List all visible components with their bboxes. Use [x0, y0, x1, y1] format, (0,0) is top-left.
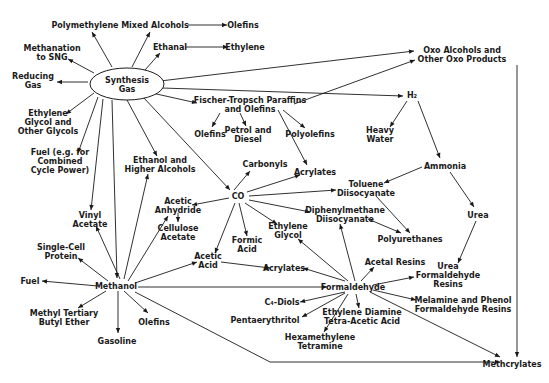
edge-arrow	[418, 101, 440, 158]
edge-arrow	[356, 294, 360, 308]
node-label: Formaldehyde	[321, 283, 386, 292]
node-label: Olefins	[227, 21, 259, 30]
edge-arrow	[78, 291, 106, 308]
node-label: Gasoline	[98, 337, 137, 346]
edge-arrow	[124, 174, 149, 279]
arrowhead-icon	[176, 217, 180, 222]
node-label: Ethanol and	[133, 156, 187, 165]
node-vinyl-acetate: VinylAcetate	[73, 211, 108, 229]
edge-arrow	[300, 292, 345, 303]
edge-arrow	[57, 80, 88, 84]
node-label: Acetate	[73, 220, 108, 229]
node-label: Polyurethanes	[377, 235, 442, 244]
node-label: Diphenylmethane	[305, 206, 385, 215]
node-methanol: Methanol	[95, 282, 137, 291]
node-hexamethylene: HexamethyleneTetramine	[285, 333, 356, 351]
edge-arrow	[78, 258, 108, 281]
node-label: Ethylene	[225, 43, 265, 52]
arrowhead-icon	[410, 60, 415, 64]
arrowhead-icon	[116, 328, 120, 333]
edge-arrow	[68, 59, 94, 73]
node-label: Synthesis	[105, 76, 149, 85]
node-oxo: Oxo Alcohols andOther Oxo Products	[418, 46, 507, 64]
node-label: Petrol and	[225, 126, 272, 135]
edge-arrow	[138, 285, 327, 289]
arrowhead-icon	[164, 216, 168, 221]
node-label: Resins	[433, 280, 463, 289]
node-label: Oxo Alcohols and	[423, 46, 501, 55]
node-acetic-anhydride: AceticAnhydride	[155, 197, 202, 215]
edge-arrow	[240, 113, 246, 126]
node-label: Ethylene Diamine	[322, 308, 402, 317]
edge-arrow	[145, 53, 160, 70]
node-methanation: Methanationto SNG	[23, 44, 80, 62]
node-label: Acid	[237, 245, 257, 254]
node-label: Higher Alcohols	[125, 165, 196, 174]
node-label: Fuel (e.g. for	[31, 148, 89, 157]
node-label: Pentaerythritol	[230, 316, 299, 325]
edge-arrow	[186, 45, 228, 49]
node-label: Acrylates	[263, 264, 305, 273]
edge-arrow	[112, 100, 119, 278]
arrowhead-icon	[324, 327, 329, 332]
node-polyolefins: Polyolefins	[285, 130, 335, 139]
node-acrylates-co: Acrylates	[294, 168, 336, 177]
node-label: Diesel	[234, 135, 262, 144]
node-ethanol-higher: Ethanol andHigher Alcohols	[125, 156, 196, 174]
node-label: Other Oxo Products	[418, 55, 507, 64]
edge-arrow	[92, 32, 112, 67]
edge-arrow	[78, 97, 98, 153]
node-syngas: SynthesisGas	[90, 68, 164, 100]
edge-arrow	[160, 49, 414, 81]
node-label: Combined	[37, 157, 82, 166]
edge-arrow	[298, 239, 348, 281]
node-label: Tetramine	[297, 342, 343, 351]
node-urea: Urea	[467, 211, 488, 220]
arrowhead-icon	[145, 174, 149, 179]
edge-arrow	[361, 267, 374, 281]
node-urea-resins: UreaFormaldehydeResins	[416, 262, 481, 289]
node-label: Olefins	[194, 130, 226, 139]
node-label: Acetal Resins	[365, 258, 426, 267]
node-label: H₂	[407, 91, 418, 100]
node-ethanal: Ethanal	[153, 43, 187, 52]
arrowhead-icon	[78, 258, 83, 263]
node-cellulose-acetate: CelluloseAcetate	[158, 224, 199, 242]
edge-arrow	[215, 203, 235, 253]
node-reducing-gas: ReducingGas	[12, 72, 54, 90]
arrowhead-icon	[300, 299, 305, 303]
node-label: Fuel	[21, 277, 40, 286]
node-label: Carbonyls	[243, 160, 288, 169]
node-acetic-acid: AceticAcid	[194, 252, 222, 270]
edge-arrow	[212, 113, 220, 127]
node-label: Other Glycols	[18, 127, 79, 136]
edge-arrow	[188, 23, 227, 27]
edge-arrow	[116, 291, 120, 333]
arrowhead-icon	[57, 80, 62, 84]
node-label: Toluene	[349, 180, 384, 189]
node-olefins-top: Olefins	[227, 21, 259, 30]
node-edta: Ethylene DiamineTetra-Acetic Acid	[322, 308, 402, 326]
node-carbonyls: Carbonyls	[243, 160, 288, 169]
node-label: Mixed Alcohols	[121, 21, 189, 30]
node-olefins-m: Olefins	[138, 318, 170, 327]
node-label: Methyl Tertiary	[30, 309, 99, 318]
node-label: Ethanal	[153, 43, 187, 52]
node-c4-diols: C₄-Diols	[264, 298, 299, 307]
edge-arrow	[127, 100, 157, 156]
node-label: C₄-Diols	[264, 298, 299, 307]
node-label: Gas	[119, 85, 136, 94]
synthesis-gas-diagram: SynthesisGasPolymethyleneMixed AlcoholsO…	[0, 0, 549, 383]
node-formic-acid: FormicAcid	[232, 236, 263, 254]
node-gasoline: Gasoline	[98, 337, 137, 346]
node-label: Cellulose	[158, 224, 199, 233]
edge-arrow	[294, 60, 415, 104]
node-acrylates-f: Acrylates	[263, 264, 305, 273]
edge-arrow	[390, 101, 407, 127]
node-label: Formaldehyde Resins	[415, 305, 512, 314]
node-label: Acid	[198, 261, 218, 270]
node-ethylene: Ethylene	[225, 43, 265, 52]
node-label: CO	[232, 192, 245, 201]
edge-arrow	[376, 196, 410, 233]
node-label: Reducing	[12, 72, 54, 81]
